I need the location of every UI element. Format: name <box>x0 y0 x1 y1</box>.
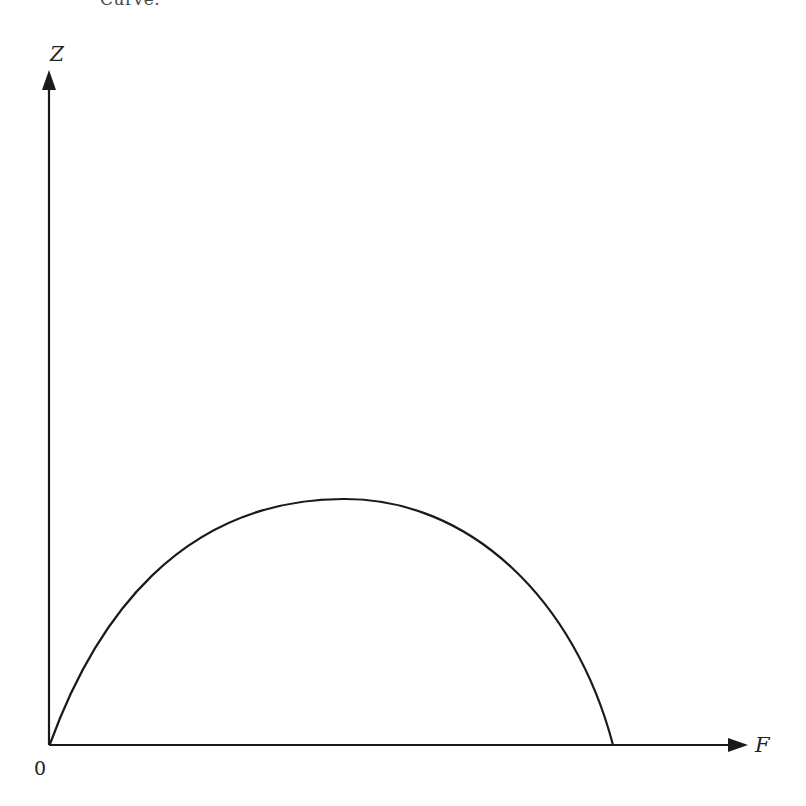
f-axis-label: F <box>755 733 770 757</box>
diagram-canvas <box>0 0 806 806</box>
z-axis-arrow-icon <box>42 70 56 90</box>
origin-label: 0 <box>34 757 46 779</box>
z-axis-label: Z <box>50 42 64 66</box>
f-axis-arrow-icon <box>728 738 748 752</box>
curve <box>50 499 613 745</box>
